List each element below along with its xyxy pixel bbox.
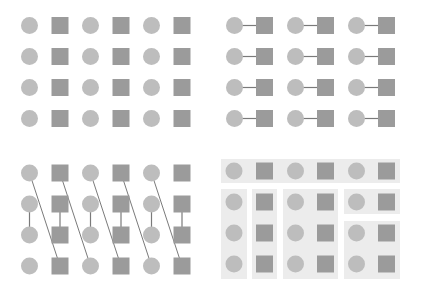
square-icon: [256, 225, 273, 242]
circle-icon: [226, 225, 243, 242]
circle-icon: [21, 227, 38, 244]
square-icon: [256, 256, 273, 273]
square-icon: [113, 196, 130, 213]
square-icon: [113, 48, 130, 65]
square-icon: [317, 256, 334, 273]
panel-4-group-boxes: [221, 159, 400, 279]
circle-icon: [348, 48, 365, 65]
square-icon: [113, 227, 130, 244]
circle-icon: [21, 110, 38, 127]
square-icon: [52, 227, 69, 244]
circle-icon: [143, 196, 160, 213]
circle-icon: [226, 163, 243, 180]
gestalt-grouping-diagram: [0, 0, 421, 288]
circle-icon: [82, 110, 99, 127]
circle-icon: [143, 48, 160, 65]
circle-icon: [143, 79, 160, 96]
circle-icon: [143, 110, 160, 127]
square-icon: [174, 227, 191, 244]
circle-icon: [143, 165, 160, 182]
circle-icon: [348, 17, 365, 34]
square-icon: [317, 48, 334, 65]
square-icon: [174, 79, 191, 96]
square-icon: [378, 17, 395, 34]
circle-icon: [287, 48, 304, 65]
square-icon: [317, 17, 334, 34]
square-icon: [52, 17, 69, 34]
square-icon: [378, 48, 395, 65]
square-icon: [113, 258, 130, 275]
circle-icon: [226, 194, 243, 211]
circle-icon: [21, 17, 38, 34]
diagonal-connector-line: [60, 173, 91, 266]
circle-icon: [287, 225, 304, 242]
circle-icon: [21, 79, 38, 96]
circle-icon: [21, 258, 38, 275]
square-icon: [378, 163, 395, 180]
circle-icon: [226, 79, 243, 96]
diagonal-connector-line: [121, 173, 152, 266]
circle-icon: [226, 48, 243, 65]
diagonal-connector-line: [152, 173, 183, 266]
circle-icon: [82, 196, 99, 213]
square-icon: [378, 256, 395, 273]
panel-2-connectors: [235, 26, 387, 119]
square-icon: [174, 48, 191, 65]
square-icon: [52, 110, 69, 127]
circle-icon: [287, 79, 304, 96]
square-icon: [256, 110, 273, 127]
diagonal-connector-line: [30, 173, 61, 266]
circle-icon: [226, 17, 243, 34]
circle-icon: [348, 163, 365, 180]
circle-icon: [21, 165, 38, 182]
circle-icon: [82, 79, 99, 96]
square-icon: [378, 79, 395, 96]
circle-icon: [287, 17, 304, 34]
circle-icon: [226, 256, 243, 273]
circle-icon: [82, 165, 99, 182]
square-icon: [378, 110, 395, 127]
square-icon: [174, 258, 191, 275]
top-row-band: [221, 159, 400, 183]
square-icon: [256, 17, 273, 34]
circle-icon: [287, 256, 304, 273]
square-icon: [256, 48, 273, 65]
square-icon: [174, 17, 191, 34]
square-icon: [52, 258, 69, 275]
circle-icon: [287, 110, 304, 127]
square-icon: [174, 110, 191, 127]
square-icon: [113, 165, 130, 182]
square-icon: [113, 17, 130, 34]
circle-icon: [21, 196, 38, 213]
circle-icon: [143, 17, 160, 34]
circle-icon: [82, 48, 99, 65]
circle-icon: [226, 110, 243, 127]
circle-icon: [348, 225, 365, 242]
square-icon: [317, 163, 334, 180]
square-icon: [113, 79, 130, 96]
square-icon: [174, 165, 191, 182]
square-icon: [52, 79, 69, 96]
diagonal-connector-line: [91, 173, 122, 266]
square-icon: [113, 110, 130, 127]
circle-icon: [143, 227, 160, 244]
circle-icon: [348, 79, 365, 96]
square-icon: [317, 110, 334, 127]
circle-icon: [143, 258, 160, 275]
square-icon: [378, 194, 395, 211]
circle-icon: [348, 110, 365, 127]
circle-icon: [287, 163, 304, 180]
circle-icon: [82, 258, 99, 275]
circle-icon: [82, 17, 99, 34]
square-icon: [52, 196, 69, 213]
square-icon: [256, 194, 273, 211]
square-icon: [256, 79, 273, 96]
square-icon: [317, 194, 334, 211]
circle-icon: [348, 256, 365, 273]
circle-icon: [82, 227, 99, 244]
circle-icon: [287, 194, 304, 211]
square-icon: [317, 79, 334, 96]
shape-grid: [21, 17, 395, 275]
square-icon: [174, 196, 191, 213]
square-icon: [378, 225, 395, 242]
